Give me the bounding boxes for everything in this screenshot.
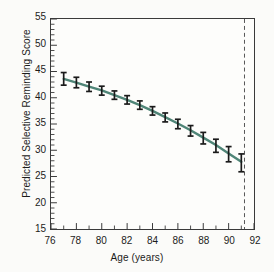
x-tick-label: 92 [240, 235, 270, 246]
plot-area [50, 18, 255, 230]
chart-figure: Predicted Selective Reminding Score Age … [0, 0, 274, 272]
error-bar [238, 154, 244, 172]
error-bar-series [61, 73, 245, 172]
x-axis-ticks [51, 223, 254, 229]
y-axis-ticks [51, 19, 57, 229]
plot-canvas [51, 19, 254, 229]
